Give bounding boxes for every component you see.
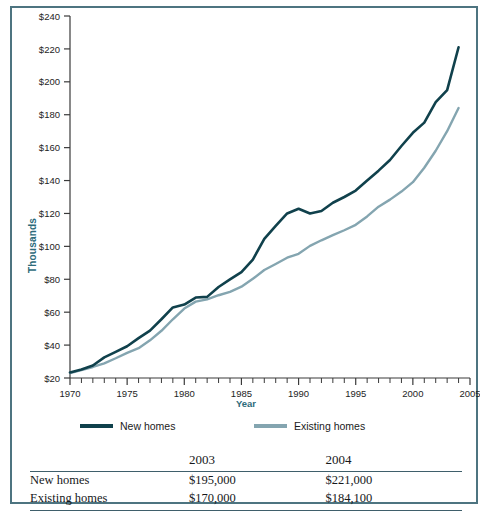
- y-axis-title: Thousands: [27, 196, 38, 296]
- svg-text:$160: $160: [39, 142, 60, 153]
- chart-frame: $240$220$200$180$160$140$120$100$80$60$4…: [10, 6, 478, 504]
- legend-swatch-existing-homes-icon: [254, 424, 287, 427]
- svg-text:$220: $220: [39, 44, 60, 55]
- table-row: New homes $195,000 $221,000: [30, 471, 462, 490]
- svg-text:$80: $80: [44, 274, 60, 285]
- svg-text:$20: $20: [44, 373, 60, 384]
- summary-table-wrap: 2003 2004 New homes $195,000 $221,000 Ex…: [30, 450, 462, 511]
- svg-text:$120: $120: [39, 208, 60, 219]
- svg-text:$40: $40: [44, 340, 60, 351]
- svg-text:$140: $140: [39, 175, 60, 186]
- legend-label-new-homes: New homes: [120, 420, 175, 432]
- table-header-2003: 2003: [189, 450, 326, 471]
- table-header-2004: 2004: [325, 450, 462, 471]
- svg-text:$200: $200: [39, 76, 60, 87]
- table-cell-new-homes-2003: $195,000: [189, 471, 326, 490]
- summary-table: 2003 2004 New homes $195,000 $221,000 Ex…: [30, 450, 462, 511]
- line-chart: $240$220$200$180$160$140$120$100$80$60$4…: [12, 8, 480, 408]
- legend-item-new-homes: New homes: [80, 420, 175, 432]
- table-cell-label-existing-homes: Existing homes: [30, 490, 189, 511]
- table-row: Existing homes $170,000 $184,100: [30, 490, 462, 511]
- legend-item-existing-homes: Existing homes: [254, 420, 365, 432]
- x-axis-title: Year: [12, 398, 480, 409]
- table-cell-new-homes-2004: $221,000: [325, 471, 462, 490]
- svg-text:$180: $180: [39, 109, 60, 120]
- table-header-blank: [30, 450, 189, 471]
- chart-legend: New homes Existing homes: [12, 420, 480, 440]
- legend-swatch-new-homes-icon: [80, 424, 113, 427]
- svg-text:$100: $100: [39, 241, 60, 252]
- legend-label-existing-homes: Existing homes: [294, 420, 365, 432]
- table-cell-label-new-homes: New homes: [30, 471, 189, 490]
- chart-page: $240$220$200$180$160$140$120$100$80$60$4…: [0, 0, 488, 512]
- svg-text:$60: $60: [44, 307, 60, 318]
- table-header-row: 2003 2004: [30, 450, 462, 471]
- table-cell-existing-homes-2004: $184,100: [325, 490, 462, 511]
- table-cell-existing-homes-2003: $170,000: [189, 490, 326, 511]
- svg-text:$240: $240: [39, 11, 60, 22]
- chart-plot-svg: $240$220$200$180$160$140$120$100$80$60$4…: [12, 8, 480, 408]
